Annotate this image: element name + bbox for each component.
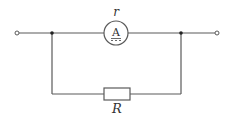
left-terminal-icon <box>15 31 19 35</box>
ammeter-resistance-label: r <box>113 5 120 19</box>
ammeter-letter: A <box>111 26 121 39</box>
resistor-icon <box>104 88 130 100</box>
left-junction-dot <box>50 31 54 35</box>
circuit-diagram: A r R <box>0 0 229 117</box>
ammeter-icon: A <box>104 21 128 45</box>
right-terminal-icon <box>215 31 219 35</box>
resistor-label: R <box>111 101 122 116</box>
right-junction-dot <box>179 31 183 35</box>
